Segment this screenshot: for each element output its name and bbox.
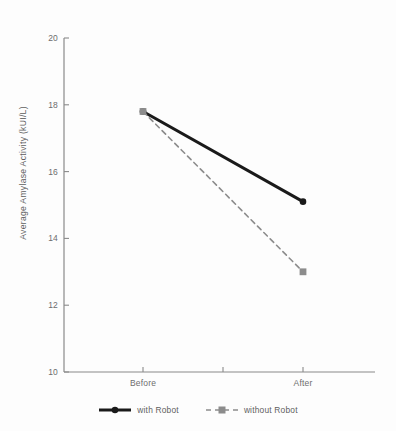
legend-label: without Robot: [244, 405, 298, 415]
series-line: [143, 111, 303, 201]
legend-label: with Robot: [137, 405, 179, 415]
legend-dashed-square-icon: [205, 405, 239, 415]
series-line: [143, 111, 303, 271]
y-axis-tick-label: 12: [48, 300, 58, 310]
y-axis-ticks: [64, 38, 69, 372]
chart-legend: with Robotwithout Robot: [0, 405, 396, 415]
y-axis-tick-label: 16: [48, 167, 58, 177]
y-axis-title: Average Amylase Activity (kUI/L): [18, 38, 28, 308]
chart-figure: 101214161820 Average Amylase Activity (k…: [0, 0, 396, 431]
y-axis-tick-label: 18: [48, 100, 58, 110]
y-axis-tick-label: 14: [48, 233, 58, 243]
legend-entry[interactable]: without Robot: [205, 405, 298, 415]
y-axis-tick-labels: 101214161820: [36, 0, 58, 431]
series-marker: [300, 198, 307, 205]
data-series-layer: [140, 108, 307, 275]
x-axis-tick-label: Before: [130, 378, 156, 388]
x-axis-ticks: [143, 367, 303, 372]
data-series: [140, 108, 307, 205]
y-axis-tick-label: 20: [48, 33, 58, 43]
series-marker: [300, 268, 307, 275]
y-axis-tick-label: 10: [48, 367, 58, 377]
chart-canvas: [0, 0, 396, 431]
x-axis-tick-label: After: [294, 378, 313, 388]
series-marker: [140, 108, 147, 115]
legend-solid-circle-icon: [98, 405, 132, 415]
data-series: [140, 108, 307, 275]
legend-entry[interactable]: with Robot: [98, 405, 179, 415]
